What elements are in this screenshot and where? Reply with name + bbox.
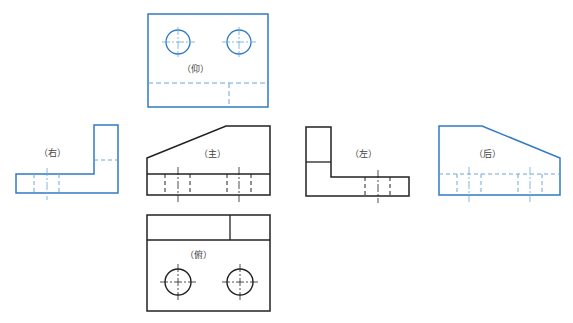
- front-view: （主）: [147, 126, 270, 202]
- right-view-outline: [16, 125, 118, 193]
- front-view-label: （主）: [199, 148, 226, 159]
- bottom-view: （仰）: [148, 14, 268, 107]
- bottom-view-label: （仰）: [182, 63, 209, 74]
- left-view-label: （左）: [350, 148, 377, 159]
- top-view: （俯）: [147, 215, 270, 311]
- right-view: （右）: [16, 125, 118, 200]
- right-view-label: （右）: [39, 147, 66, 158]
- top-view-label: （俯）: [185, 249, 212, 260]
- six-views-drawing: （仰） （右） （主）: [0, 0, 573, 323]
- rear-view-label: （后）: [474, 149, 501, 159]
- rear-view: （后）: [439, 126, 560, 202]
- left-view: （左）: [306, 127, 409, 203]
- bottom-view-outline: [148, 14, 268, 107]
- top-view-outline: [147, 215, 270, 311]
